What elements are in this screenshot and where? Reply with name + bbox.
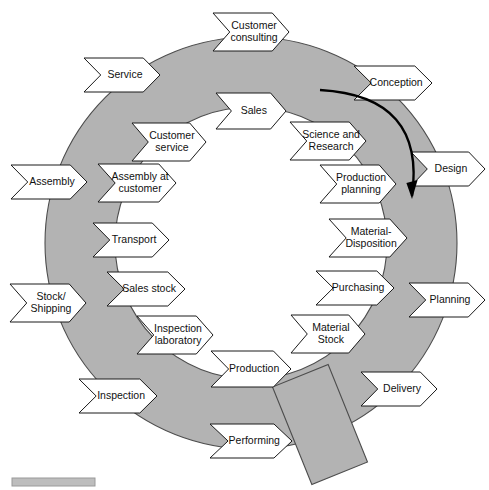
chevron-label: Planning — [430, 293, 471, 305]
chevron-label: Transport — [112, 233, 157, 245]
chevron-label: Conception — [370, 76, 423, 88]
chevron-label: Production — [229, 362, 279, 374]
chevron-label: Service — [108, 68, 143, 80]
stage-sales[interactable]: Sales — [216, 93, 286, 129]
chevron-label: laboratory — [155, 334, 202, 346]
footer-gray-bar — [12, 478, 95, 486]
stage-customer-consulting[interactable]: Customerconsulting — [213, 13, 289, 51]
chevron-label: Sales — [241, 104, 267, 116]
cycle-ring-diagram: CustomerconsultingServiceConceptionAssem… — [0, 0, 489, 490]
stage-material-disposition[interactable]: Material-Disposition — [329, 219, 407, 257]
chevron-label: Stock/ — [36, 290, 65, 302]
chevron-label: Design — [435, 162, 468, 174]
stage-production-planning[interactable]: Productionplanning — [320, 165, 396, 203]
chevron-label: Science and — [302, 128, 360, 140]
stage-stock-shipping[interactable]: Stock/Shipping — [10, 284, 86, 322]
diagram-canvas: CustomerconsultingServiceConceptionAssem… — [0, 0, 489, 490]
stage-production[interactable]: Production — [211, 351, 291, 387]
chevron-label: Research — [309, 140, 354, 152]
chevron-label: Assembly at — [112, 170, 169, 182]
chevron-label: Sales stock — [122, 282, 176, 294]
chevron-label: customer — [119, 182, 163, 194]
chevron-label: Delivery — [383, 382, 422, 394]
stage-purchasing[interactable]: Purchasing — [316, 271, 394, 305]
chevron-label: Performing — [229, 434, 281, 446]
chevron-label: Disposition — [345, 237, 397, 249]
stage-service[interactable]: Service — [84, 58, 160, 92]
stage-inspection[interactable]: Inspection — [79, 379, 157, 413]
chevron-label: Assembly — [29, 175, 75, 187]
chevron-label: planning — [341, 183, 381, 195]
chevron-label: Production — [336, 171, 386, 183]
stage-material-stock[interactable]: MaterialStock — [291, 315, 365, 353]
chevron-label: Material — [312, 321, 349, 333]
chevron-label: Customer — [231, 19, 277, 31]
chevron-label: Material- — [351, 225, 392, 237]
chevron-label: Stock — [318, 333, 345, 345]
chevron-label: consulting — [230, 31, 277, 43]
chevron-label: Inspection — [97, 389, 145, 401]
chevron-label: service — [155, 141, 188, 153]
chevron-label: Customer — [149, 129, 195, 141]
stage-science-and-research[interactable]: Science andResearch — [290, 122, 366, 160]
chevron-label: Purchasing — [332, 281, 385, 293]
chevron-label: Inspection — [154, 322, 202, 334]
chevron-label: Shipping — [31, 302, 72, 314]
stage-assembly[interactable]: Assembly — [11, 165, 87, 199]
